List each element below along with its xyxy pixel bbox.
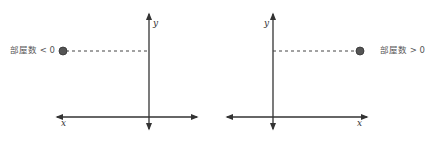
right-data-point: [356, 47, 364, 55]
right-x-axis-label: x: [357, 119, 362, 128]
left-point-label: 部屋数 < 0: [10, 46, 55, 55]
left-y-axis-label: y: [153, 19, 158, 28]
left-data-point: [59, 47, 67, 55]
left-coordinate-system: [57, 14, 197, 129]
right-point-label: 部屋数 > 0: [380, 46, 425, 55]
right-y-axis-label: y: [264, 19, 269, 28]
left-x-axis-label: x: [61, 119, 66, 128]
right-coordinate-system: [227, 14, 367, 129]
